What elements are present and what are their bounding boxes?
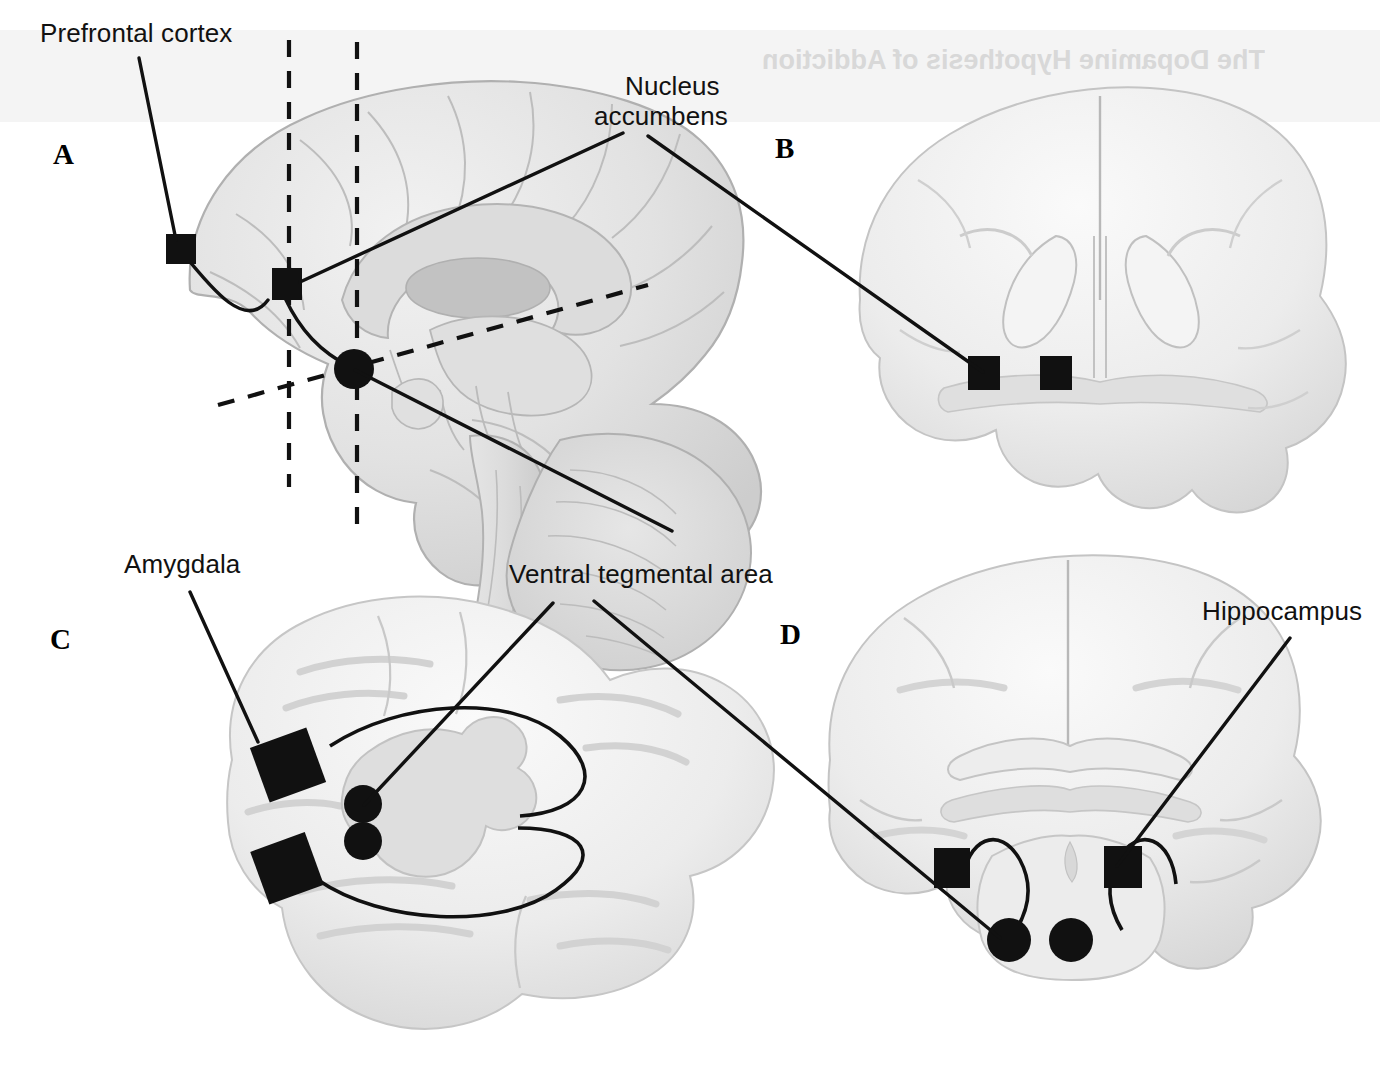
marker-nucleus-accumbens-b-right [1040,356,1072,390]
leader-amygdala [190,592,258,742]
panel-b-artwork [860,87,1346,512]
figure-canvas: The Dopamine Hypothesis of Addiction [0,0,1380,1079]
panel-letter-c: C [50,625,71,654]
coronal-b-outline [860,87,1346,512]
label-nucleus-accumbens-line2: accumbens [594,101,728,131]
leader-prefrontal-cortex [139,58,176,240]
figure-artwork [0,0,1380,1079]
label-nucleus-accumbens-line1: Nucleus [625,71,720,101]
marker-prefrontal-cortex [166,234,196,264]
marker-hippocampus-d-right [1104,846,1142,888]
panel-letter-d: D [780,620,801,649]
marker-nucleus-accumbens-a [272,268,302,300]
marker-ventral-tegmental-area-c-lower [344,822,382,860]
label-ventral-tegmental-area: Ventral tegmental area [509,559,773,589]
marker-ventral-tegmental-area-d-right [1049,918,1093,962]
marker-hippocampus-d-left [934,848,970,888]
label-hippocampus: Hippocampus [1202,596,1362,626]
ventricle-shadow [406,258,550,318]
panel-letter-a: A [53,140,74,169]
panel-letter-b: B [775,134,794,163]
label-prefrontal-cortex: Prefrontal cortex [40,18,232,48]
marker-ventral-tegmental-area-d-left [987,918,1031,962]
label-amygdala: Amygdala [124,549,240,579]
hypothalamus [392,379,443,429]
